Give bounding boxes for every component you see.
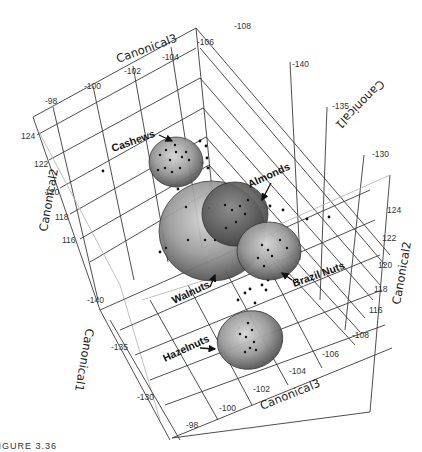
- svg-text:118: 118: [374, 284, 388, 294]
- svg-text:116: 116: [62, 235, 76, 245]
- svg-text:122: 122: [382, 233, 396, 243]
- label-walnuts: Walnuts: [170, 278, 212, 306]
- svg-text:-106: -106: [197, 37, 214, 47]
- right-axis-title: Canonical2: [389, 240, 414, 305]
- svg-text:-130: -130: [372, 149, 389, 159]
- ellipsoid-cashews: [149, 137, 203, 187]
- bottom-left-ticks: -140 -135 -130: [87, 295, 154, 402]
- 3d-canonical-plot: Cashews Almonds Brazil Nuts Walnuts Haze…: [0, 0, 422, 452]
- svg-text:-106: -106: [322, 349, 339, 359]
- bottom-axis-title: Canonical3: [258, 376, 322, 413]
- bottom-left-axis-title: Canonical1: [72, 327, 97, 392]
- figure-caption: FIGURE 3.36: [0, 441, 57, 451]
- svg-text:-98: -98: [186, 420, 199, 430]
- svg-text:-100: -100: [219, 403, 236, 413]
- svg-text:-104: -104: [162, 52, 179, 62]
- svg-text:-140: -140: [87, 295, 104, 305]
- left-axis-title: Canonical2: [36, 167, 61, 232]
- svg-text:-98: -98: [45, 96, 58, 106]
- svg-text:116: 116: [369, 305, 383, 315]
- svg-text:-108: -108: [234, 21, 251, 31]
- svg-text:-130: -130: [137, 392, 154, 402]
- right-tick-bottom: -108: [352, 330, 369, 340]
- label-brazil-nuts: Brazil Nuts: [291, 259, 347, 289]
- svg-text:-102: -102: [124, 66, 141, 76]
- ellipsoid-brazil-nuts: [237, 222, 301, 280]
- svg-text:-104: -104: [289, 366, 306, 376]
- label-cashews: Cashews: [110, 127, 157, 154]
- top-right-ticks: -140 -135 -130: [292, 59, 389, 159]
- svg-text:124: 124: [387, 205, 401, 215]
- svg-text:-100: -100: [84, 81, 101, 91]
- svg-text:-140: -140: [292, 59, 309, 69]
- svg-text:124: 124: [21, 131, 35, 141]
- svg-text:120: 120: [378, 260, 392, 270]
- svg-text:-102: -102: [253, 384, 270, 394]
- svg-text:118: 118: [55, 212, 69, 222]
- svg-text:-135: -135: [111, 342, 128, 352]
